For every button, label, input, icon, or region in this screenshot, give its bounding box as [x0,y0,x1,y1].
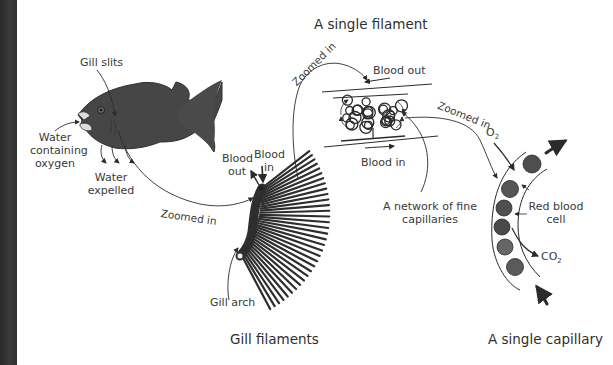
label-gill-slits: Gill slits [80,56,123,69]
title-single-filament: A single filament [314,16,428,32]
capillary-loop [362,98,370,106]
red-blood-cell [507,259,524,276]
title-gill-filaments: Gill filaments [230,331,319,347]
network-pointer [402,112,428,192]
filament-illustration [322,78,438,148]
red-blood-cell [496,200,512,216]
filament-blood-in-arrow [365,146,394,148]
filament-blood-out-arrow [365,78,390,82]
red-blood-cell [497,239,513,255]
label-blood-in-filament: Blood in [361,156,406,169]
label-capillary-network: A network of fine capillaries [380,200,480,226]
title-single-capillary: A single capillary [488,331,603,347]
flow-arrow-out [546,141,565,153]
gill-filament [260,211,329,213]
water-in-arrow [55,122,79,131]
label-water-expelled: Water expelled [86,171,136,197]
label-water-containing-oxygen: Water containing oxygen [30,131,80,170]
label-blood-out-gill: Blood out [222,152,252,178]
water-out-arrow-1 [101,145,106,163]
label-blood-in-gill: Blood in [254,148,284,174]
label-red-blood-cell: Red blood cell [528,200,584,226]
gill-vessel-top [259,186,264,191]
label-blood-out-filament: Blood out [373,64,426,77]
gill-filament [260,215,329,217]
label-oxygen: O2 [486,126,499,144]
red-blood-cell [523,155,541,173]
red-blood-cell [494,219,510,235]
oxygen-arrow [494,143,514,170]
co2-arrow [512,228,538,256]
gill-arch-end [237,253,243,259]
fish-illustration [78,80,222,152]
red-blood-cell [502,181,519,198]
label-co2: CO2 [541,250,562,268]
capillary-network [342,95,407,138]
flow-arrow-in [537,287,547,304]
label-gill-arch: Gill arch [210,296,255,309]
